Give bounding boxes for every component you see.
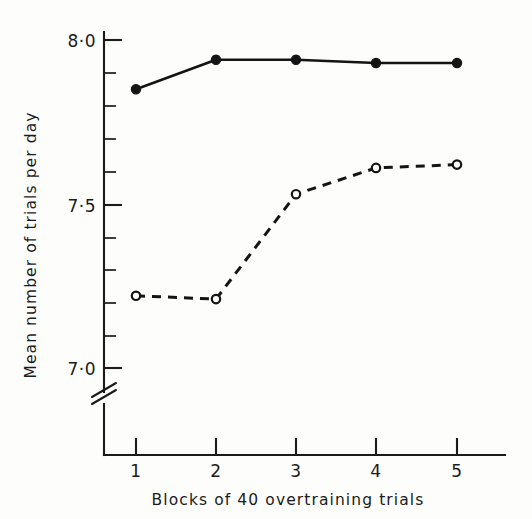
y-tick-label-7: 7·0: [67, 359, 96, 379]
data-point-dashed-open-circles-5: [453, 160, 461, 168]
data-point-solid-filled-circles-1: [131, 85, 140, 94]
data-series-layer: [131, 55, 461, 303]
data-point-solid-filled-circles-5: [452, 58, 461, 67]
data-point-solid-filled-circles-2: [211, 55, 220, 64]
line-chart-canvas: 8·0 7·5 7·0 1 2 3 4 5 Blocks of 40 overt…: [0, 0, 532, 519]
x-tick-label-2: 2: [210, 461, 221, 481]
data-point-solid-filled-circles-4: [371, 58, 380, 67]
series-line-dashed-open-circles: [136, 165, 457, 300]
y-tick-label-8: 8·0: [67, 31, 96, 51]
x-tick-label-3: 3: [290, 461, 301, 481]
x-axis-title: Blocks of 40 overtraining trials: [152, 491, 425, 509]
x-tick-label-5: 5: [451, 461, 462, 481]
y-tick-label-7-5: 7·5: [67, 196, 96, 216]
chart-figure: 8·0 7·5 7·0 1 2 3 4 5 Blocks of 40 overt…: [0, 0, 532, 519]
x-axis-ticks: [136, 438, 457, 455]
x-tick-label-4: 4: [370, 461, 381, 481]
data-point-solid-filled-circles-3: [291, 55, 300, 64]
y-axis-major-ticks: [104, 40, 122, 368]
y-axis-title: Mean number of trials per day: [22, 111, 40, 378]
data-point-dashed-open-circles-4: [372, 164, 380, 172]
x-tick-label-1: 1: [130, 461, 141, 481]
data-point-dashed-open-circles-1: [132, 292, 140, 300]
data-point-dashed-open-circles-2: [212, 295, 220, 303]
data-point-dashed-open-circles-3: [292, 190, 300, 198]
